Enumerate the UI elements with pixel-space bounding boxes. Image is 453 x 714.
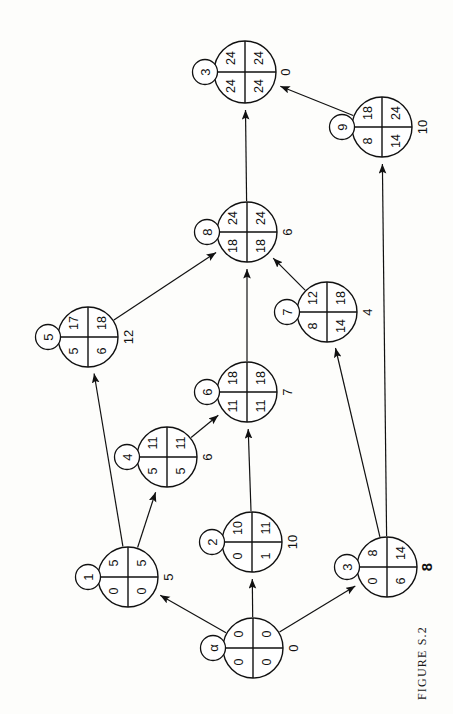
cell-top-left: 11 bbox=[146, 436, 160, 449]
node-outside-value: 0 bbox=[286, 644, 301, 651]
node-outside-value: 6 bbox=[200, 453, 215, 460]
edge-n9-to-n3t bbox=[280, 86, 353, 115]
node-n4[interactable]: 11115546 bbox=[115, 427, 215, 487]
cell-top-left: 10 bbox=[231, 521, 245, 535]
node-layer: 0000α05500151011012108140638111155461718… bbox=[36, 41, 435, 678]
cell-top-right: 18 bbox=[95, 316, 109, 330]
cell-bottom-right: 11 bbox=[254, 399, 268, 412]
cell-top-right: 18 bbox=[334, 291, 348, 305]
cell-top-left: 18 bbox=[361, 106, 375, 120]
node-tag-label: 3 bbox=[340, 563, 355, 570]
cell-bottom-right: 14 bbox=[334, 319, 348, 333]
node-tag-label: 4 bbox=[120, 453, 135, 460]
edge-n1-to-n4 bbox=[138, 492, 156, 547]
cell-bottom-right: 6 bbox=[95, 347, 109, 354]
node-tag-label: 6 bbox=[200, 388, 215, 395]
node-tag-label: 1 bbox=[81, 573, 96, 580]
node-n1[interactable]: 550015 bbox=[76, 547, 176, 607]
cell-bottom-left: 5 bbox=[67, 347, 81, 354]
cell-top-left: 17 bbox=[67, 316, 81, 330]
cell-top-right: 11 bbox=[174, 436, 188, 449]
cell-bottom-right: 14 bbox=[389, 134, 403, 148]
cell-bottom-left: 11 bbox=[226, 399, 240, 412]
edge-n7-to-n8 bbox=[273, 258, 305, 290]
edge-n4-to-n6 bbox=[191, 415, 218, 437]
node-outside-value: 10 bbox=[285, 535, 300, 549]
cell-bottom-right: 5 bbox=[174, 467, 188, 474]
cell-bottom-left: 0 bbox=[366, 577, 380, 584]
edge-n5-to-n8 bbox=[114, 252, 216, 320]
network-diagram: 0000α05500151011012108140638111155461718… bbox=[0, 0, 453, 714]
node-tag-label: 5 bbox=[41, 333, 56, 340]
cell-bottom-right: 1 bbox=[259, 552, 273, 559]
cell-top-right: 24 bbox=[389, 106, 403, 120]
cell-top-left: 18 bbox=[226, 371, 240, 385]
cell-top-left: 24 bbox=[224, 51, 238, 65]
node-tag-label: 3 bbox=[198, 68, 213, 75]
node-n8[interactable]: 2424181886 bbox=[195, 202, 295, 262]
node-n6[interactable]: 1818111167 bbox=[195, 362, 295, 422]
cell-bottom-right: 0 bbox=[135, 587, 149, 594]
cell-bottom-left: 8 bbox=[361, 137, 375, 144]
cell-bottom-right: 18 bbox=[254, 239, 268, 253]
node-n3b[interactable]: 8140638 bbox=[335, 537, 435, 597]
edge-n8-to-n3t bbox=[246, 110, 247, 201]
cell-top-left: 5 bbox=[107, 559, 121, 566]
cell-bottom-left: 0 bbox=[231, 552, 245, 559]
node-tag-label: α bbox=[206, 644, 221, 652]
cell-top-left: 8 bbox=[366, 549, 380, 556]
node-n7[interactable]: 121881474 bbox=[275, 282, 375, 342]
cell-top-right: 11 bbox=[259, 521, 273, 534]
cell-top-left: 12 bbox=[306, 291, 320, 305]
node-n2[interactable]: 101101210 bbox=[200, 512, 300, 572]
cell-bottom-left: 24 bbox=[224, 79, 238, 93]
edge-n3b-to-n7 bbox=[336, 348, 380, 537]
node-outside-value: 5 bbox=[161, 573, 176, 580]
cell-bottom-left: 0 bbox=[107, 587, 121, 594]
cell-bottom-left: 8 bbox=[306, 322, 320, 329]
node-tag-label: 7 bbox=[280, 308, 295, 315]
cell-bottom-right: 0 bbox=[260, 658, 274, 665]
node-tag-label: 9 bbox=[335, 123, 350, 130]
node-outside-value: 0 bbox=[278, 68, 293, 75]
cell-top-right: 18 bbox=[254, 371, 268, 385]
cell-top-right: 5 bbox=[135, 559, 149, 566]
edge-n3b-to-n9 bbox=[382, 164, 386, 536]
node-outside-value: 12 bbox=[121, 330, 136, 344]
node-outside-value: 7 bbox=[280, 388, 295, 395]
cell-top-left: 0 bbox=[232, 630, 246, 637]
node-outside-value: 10 bbox=[415, 120, 430, 134]
edge-alpha-to-n3b bbox=[280, 586, 356, 632]
cell-bottom-right: 6 bbox=[394, 577, 408, 584]
node-tag-label: 2 bbox=[205, 538, 220, 545]
cell-top-right: 14 bbox=[394, 546, 408, 560]
figure-canvas: 0000α05500151011012108140638111155461718… bbox=[0, 0, 453, 714]
cell-top-right: 24 bbox=[252, 51, 266, 65]
cell-bottom-right: 24 bbox=[252, 79, 266, 93]
edge-alpha-to-n1 bbox=[160, 595, 226, 632]
node-tag-label: 8 bbox=[200, 228, 215, 235]
node-outside-value: 8 bbox=[418, 563, 435, 571]
cell-top-right: 24 bbox=[254, 211, 268, 225]
figure-caption: FIGURE S.2 bbox=[415, 626, 430, 700]
cell-top-left: 24 bbox=[226, 211, 240, 225]
cell-bottom-left: 0 bbox=[232, 658, 246, 665]
node-n3t[interactable]: 2424242430 bbox=[193, 41, 293, 103]
node-outside-value: 6 bbox=[280, 228, 295, 235]
cell-bottom-left: 5 bbox=[146, 467, 160, 474]
edge-n2-to-n6 bbox=[248, 429, 251, 511]
cell-top-right: 0 bbox=[260, 630, 274, 637]
node-outside-value: 4 bbox=[360, 308, 375, 315]
cell-bottom-left: 18 bbox=[226, 239, 240, 253]
node-n9[interactable]: 1824814910 bbox=[330, 97, 430, 157]
